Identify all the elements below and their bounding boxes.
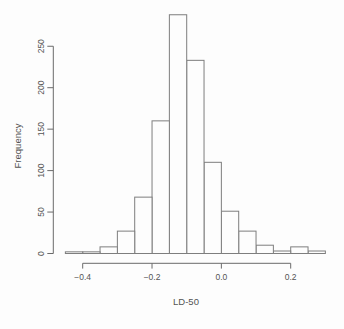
y-tick-label: 250 (36, 39, 46, 53)
x-axis-title: LD-50 (173, 296, 199, 307)
histogram-bar (239, 231, 256, 253)
histogram-bar (152, 121, 169, 254)
y-tick-label: 50 (36, 207, 46, 217)
y-axis-title: Frequency (12, 123, 23, 168)
histogram-bar (273, 251, 290, 253)
ld50-histogram-svg: 0.20.0−0.2−0.4250200150100500 Frequency … (0, 0, 344, 329)
histogram-bar (256, 245, 273, 253)
histogram-bar (100, 247, 117, 254)
y-tick-label: 200 (36, 80, 46, 94)
histogram-bar (291, 247, 308, 254)
histogram-bar (204, 162, 221, 253)
y-tick-label: 150 (36, 122, 46, 136)
histogram-bar (221, 211, 238, 253)
x-tick-label: 0.2 (285, 272, 297, 282)
histogram-bar (83, 252, 100, 254)
y-tick-label: 0 (36, 251, 46, 256)
histogram-bar (187, 60, 204, 253)
y-tick-label: 100 (36, 163, 46, 177)
histogram-bar (308, 251, 325, 253)
histogram-bar (135, 197, 152, 253)
histogram-bar (169, 15, 186, 254)
x-tick-label: −0.2 (144, 272, 161, 282)
histogram-bar (65, 252, 82, 254)
figure-canvas: 0.20.0−0.2−0.4250200150100500 Frequency … (0, 0, 344, 329)
x-tick-label: −0.4 (74, 272, 91, 282)
histogram-bar (117, 231, 134, 253)
x-tick-label: 0.0 (215, 272, 227, 282)
